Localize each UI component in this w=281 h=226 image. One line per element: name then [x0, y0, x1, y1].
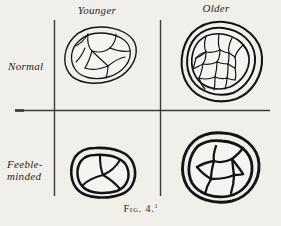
caption-number: 4. — [145, 203, 154, 214]
column-label-younger: Younger — [61, 4, 133, 16]
cell-diagram-feebleminded-younger — [71, 148, 135, 198]
cell-diagram-normal-younger — [65, 27, 136, 83]
cell-diagram-normal-older — [182, 22, 262, 102]
row-label-normal: Normal — [8, 60, 43, 72]
figure-caption: Fig. 4.1 — [0, 203, 281, 214]
column-label-older: Older — [187, 2, 245, 14]
inner-wall-normal-older — [187, 28, 255, 95]
row-label-feebleminded: Feeble- minded — [7, 158, 43, 183]
caption-label: Fig. — [123, 203, 142, 214]
cell-diagram-feebleminded-older — [183, 133, 260, 202]
figure-drawing — [0, 0, 281, 226]
caption-footnote-marker: 1 — [155, 203, 158, 209]
figure-container: Younger Older Normal Feeble- minded Fig.… — [0, 0, 281, 226]
row-label-feebleminded-line1: Feeble- — [7, 158, 43, 170]
row-label-feebleminded-line2: minded — [7, 170, 43, 182]
